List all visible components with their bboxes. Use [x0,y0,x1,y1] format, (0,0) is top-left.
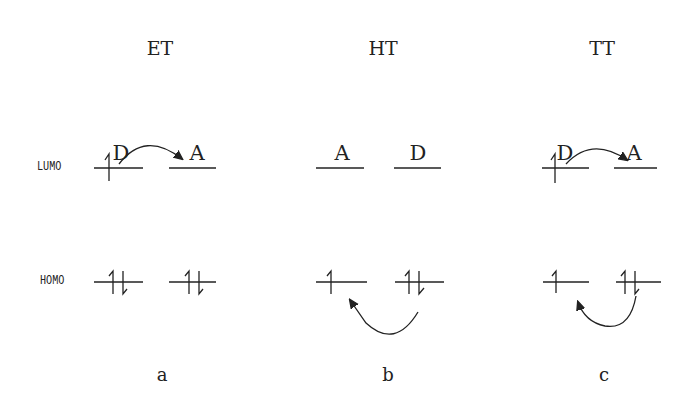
panel-a-transfer-arrow [119,146,182,164]
orbital-drawing [0,0,696,410]
panel-b-transfer-arrow [350,300,418,334]
panel-c-transfer-arrow-lower [578,296,636,326]
panel-a-homo-levels [94,271,216,294]
panel-a-lumo-levels [94,154,216,181]
panel-b-homo-levels [316,271,444,294]
panel-c-transfer-arrow [566,149,627,164]
panel-c-homo-levels [543,271,661,294]
panel-c-lumo-levels [542,154,657,183]
